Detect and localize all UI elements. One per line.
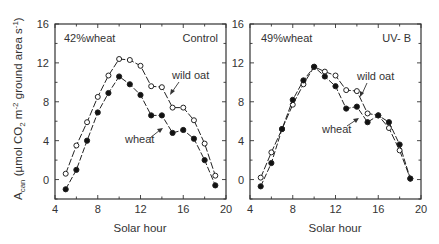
wheat-point [138,92,143,97]
annotation-right: 49%wheat [261,32,312,44]
wheat-point [181,127,186,132]
wheat-point [279,126,284,131]
wheat-point [149,113,154,118]
wheat-point [269,160,274,165]
y-tick-label: 8 [238,96,244,108]
wild-oat-point [365,111,370,116]
plot-frame-left [55,24,226,199]
wheat-point [74,167,79,172]
x-tick-label: 4 [52,203,58,215]
wild-oat-point [170,105,175,110]
wheat-point [258,184,263,189]
y-tick-label: 0 [238,174,244,186]
panel-uvb: 481216200481216 49%wheat UV- B wild oat … [232,18,427,234]
wheat-point [312,64,317,69]
x-tick-label: 8 [95,203,101,215]
y-tick-label: 4 [238,135,244,147]
arrow-wild-oat-right [362,83,367,94]
y-tick-label: 16 [37,18,49,30]
wild-oat-point [159,85,164,90]
plot-frame-right [250,24,421,199]
x-tick-label: 20 [220,203,232,215]
y-tick-label: 16 [232,18,244,30]
panel-label-control: Control [183,32,218,44]
wheat-point [191,136,196,141]
wheat-point [397,142,402,147]
panel-control: 481216200481216 42%wheat Control wild oa… [37,18,232,234]
x-tick-label: 16 [177,203,189,215]
x-tick-label: 12 [134,203,146,215]
wheat-point [202,158,207,163]
wild-oat-point [74,143,79,148]
wild-oat-point [95,94,100,99]
wheat-point [106,90,111,95]
wheat-point [333,84,338,89]
y-tick-label: 12 [37,57,49,69]
y-tick-label: 0 [43,174,49,186]
wheat-point [117,74,122,79]
label-wild-oat-left: wild oat [171,69,209,81]
x-tick-label: 8 [290,203,296,215]
y-tick-label: 8 [43,96,49,108]
wild-oat-point [213,173,218,178]
x-axis-title-left: Solar hour [113,222,166,234]
wheat-point [376,113,381,118]
wild-oat-point [127,57,132,62]
wild-oat-point [117,57,122,62]
arrowhead-wheat-right [353,118,359,123]
x-tick-label: 20 [415,203,427,215]
x-axis-title-right: Solar hour [308,222,361,234]
y-tick-label: 12 [232,57,244,69]
axis-ticks-left: 481216200481216 [37,18,232,215]
label-wheat-right: wheat [321,123,351,135]
wheat-point [408,176,413,181]
label-wild-oat-right: wild oat [356,70,394,82]
wild-oat-point [85,120,90,125]
wild-oat-point [191,118,196,123]
wheat-point [354,104,359,109]
wild-oat-point [354,89,359,94]
wild-oat-point [63,171,68,176]
wild-oat-point [290,102,295,107]
wheat-point [95,110,100,115]
wild-oat-point [138,63,143,68]
wild-oat-point [202,141,207,146]
annotation-left: 42%wheat [64,32,115,44]
label-wheat-left: wheat [124,133,154,145]
wheat-point [386,120,391,125]
wheat-point [365,120,370,125]
wheat-point [322,74,327,79]
wheat-point [213,183,218,188]
arrowhead-wild-oat-left [170,89,175,95]
wheat-point [344,106,349,111]
x-tick-label: 16 [372,203,384,215]
wild-oat-point [333,73,338,78]
wild-oat-point [322,69,327,74]
wheat-point [290,97,295,102]
wild-oat-point [344,88,349,93]
y-axis-title: Acan (µmol CO2 m-2 ground area s-1) [11,17,27,200]
x-tick-label: 12 [329,203,341,215]
wheat-point [170,130,175,135]
wild-oat-point [181,105,186,110]
panel-label-uvb: UV- B [382,32,411,44]
wheat-point [301,78,306,83]
wheat-point [84,138,89,143]
wheat-point [63,187,68,192]
wild-oat-point [149,84,154,89]
x-tick-label: 4 [247,203,253,215]
wheat-point [127,82,132,87]
chart-figure: 481216200481216 42%wheat Control wild oa… [0,0,439,244]
wheat-point [159,113,164,118]
y-tick-label: 4 [43,135,49,147]
wild-oat-point [258,175,263,180]
wild-oat-point [106,73,111,78]
wild-oat-point [269,150,274,155]
